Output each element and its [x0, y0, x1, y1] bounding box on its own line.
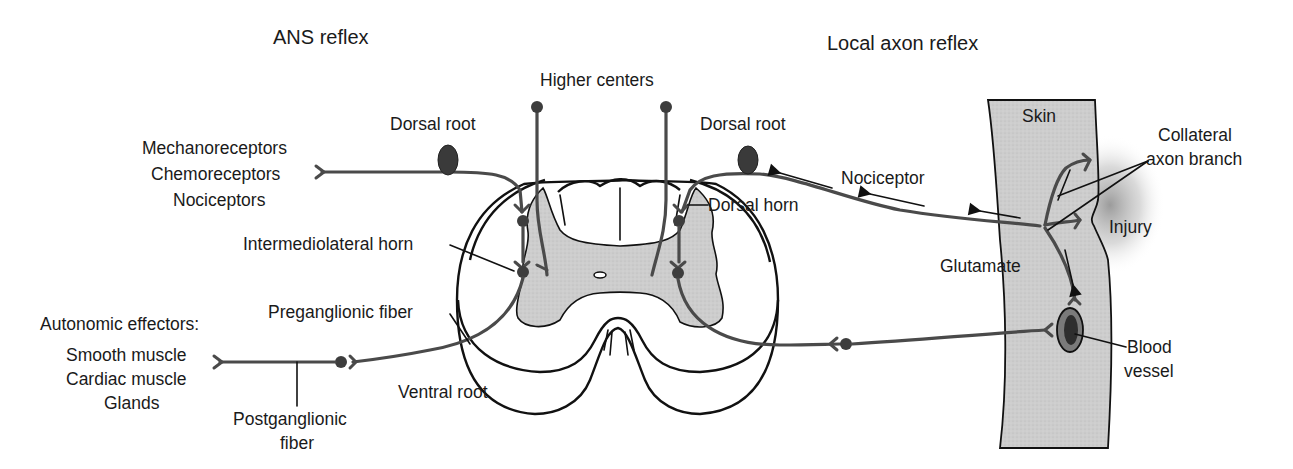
receptor-label-nociceptors: Nociceptors	[173, 190, 266, 210]
preganglionic-fiber-label: Preganglionic fiber	[268, 302, 413, 322]
effector-label-glands: Glands	[104, 393, 160, 413]
receptor-label-chemoreceptors: Chemoreceptors	[151, 164, 281, 184]
effector-label-smooth-muscle: Smooth muscle	[66, 345, 187, 365]
glutamate-label: Glutamate	[940, 256, 1021, 276]
dorsal-root-right-label: Dorsal root	[700, 114, 786, 134]
receptor-label-mechanoreceptors: Mechanoreceptors	[142, 138, 287, 158]
intermediolateral-horn-label: Intermediolateral horn	[243, 234, 413, 254]
autonomic-ganglion-cell	[335, 356, 347, 368]
ans-and-local-axon-reflex-diagram: ANS reflex Local axon reflex Skin Injury…	[0, 0, 1293, 469]
dorsal-root-ganglion-right	[738, 146, 758, 174]
ans-reflex-title: ANS reflex	[273, 26, 369, 48]
dorsal-root-ganglion-left	[438, 145, 458, 175]
blood-vessel-label-line1: Blood	[1127, 337, 1172, 357]
collateral-axon-branch-label-line1: Collateral	[1158, 125, 1232, 145]
receptor-ending-left	[316, 166, 324, 178]
effector-label-cardiac-muscle: Cardiac muscle	[66, 369, 187, 389]
dorsal-root-left-label: Dorsal root	[390, 114, 476, 134]
postganglionic-fiber-label-line1: Postganglionic	[233, 409, 347, 429]
local-axon-reflex-title: Local axon reflex	[827, 32, 978, 54]
postganglionic-fiber-label-line2: fiber	[280, 433, 314, 453]
skin-label: Skin	[1022, 106, 1056, 126]
blood-vessel-label-line2: vessel	[1124, 361, 1174, 381]
blood-vessel	[1057, 308, 1083, 352]
higher-centers-label: Higher centers	[540, 70, 654, 90]
autonomic-effectors-label: Autonomic effectors:	[40, 314, 199, 334]
ventral-root-label: Ventral root	[398, 382, 488, 402]
dorsal-horn-label: Dorsal horn	[708, 195, 798, 215]
collateral-axon-branch-label-line2: axon branch	[1146, 149, 1242, 169]
injury-label: Injury	[1109, 217, 1152, 237]
effector-ending	[214, 356, 222, 368]
nociceptor-label: Nociceptor	[841, 168, 925, 188]
